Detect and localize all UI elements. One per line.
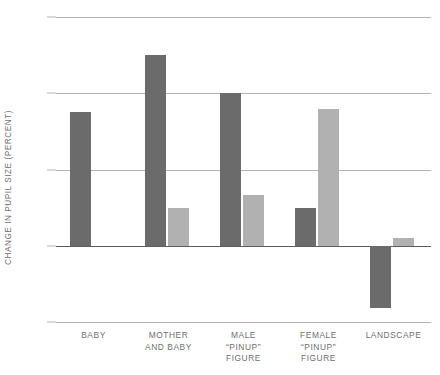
y-tick-mark: [47, 245, 56, 246]
y-axis-title: CHANGE IN PUPIL SIZE (PERCENT): [0, 0, 16, 375]
bar: [393, 238, 414, 246]
x-axis-label-line: FIGURE: [271, 353, 366, 365]
x-axis-label: LANDSCAPE: [346, 330, 440, 342]
gridline: [56, 17, 431, 18]
x-axis-label-line: “PINUP”: [271, 342, 366, 354]
bar: [318, 109, 339, 246]
y-tick-mark: [47, 322, 56, 323]
bar: [145, 55, 166, 246]
bar: [168, 208, 189, 246]
x-axis-label-line: LANDSCAPE: [346, 330, 440, 342]
y-tick-mark: [47, 17, 56, 18]
y-tick-mark: [47, 93, 56, 94]
pupil-size-bar-chart: CHANGE IN PUPIL SIZE (PERCENT) 3020100–1…: [0, 0, 440, 375]
plot-area: 3020100–10: [56, 17, 431, 322]
bar: [243, 195, 264, 246]
gridline: [56, 93, 431, 94]
bar: [70, 112, 91, 245]
gridline: [56, 322, 431, 323]
bar: [220, 93, 241, 246]
x-axis-labels: BABYMOTHERAND BABYMALE“PINUP”FIGUREFEMAL…: [56, 330, 431, 375]
y-tick-mark: [47, 169, 56, 170]
bar: [295, 208, 316, 246]
bar: [370, 246, 391, 308]
gridline: [56, 170, 431, 171]
